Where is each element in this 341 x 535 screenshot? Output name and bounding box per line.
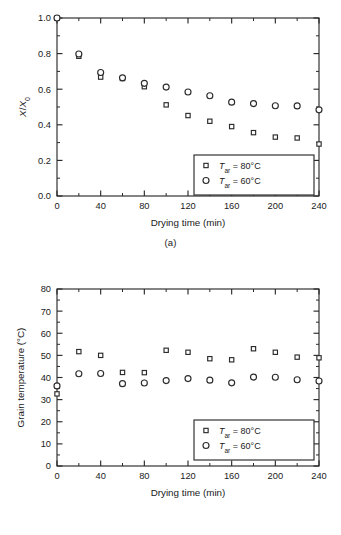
data-point-square	[99, 353, 103, 357]
legend-marker-circle	[203, 443, 209, 449]
data-point-circle	[294, 377, 300, 383]
chart-panel-a: 040801201602002400.00.20.40.60.81.0Dryin…	[0, 0, 341, 267]
data-point-circle	[163, 84, 169, 90]
data-point-square	[186, 350, 190, 354]
y-tick-label: 20	[41, 417, 51, 427]
data-series-1	[55, 347, 321, 396]
data-point-circle	[229, 99, 235, 105]
y-tick-label: 1.0	[38, 13, 51, 23]
y-axis-title: X/X0	[17, 97, 31, 118]
x-tick-label: 200	[268, 201, 284, 211]
data-point-circle	[163, 378, 169, 384]
data-point-circle	[272, 374, 278, 380]
data-point-circle	[141, 80, 147, 86]
data-point-circle	[98, 69, 104, 75]
data-point-circle	[251, 374, 257, 380]
data-point-square	[120, 370, 124, 374]
y-tick-label: 0.0	[38, 191, 51, 201]
panel-a-caption: (a)	[0, 237, 341, 248]
data-point-circle	[185, 89, 191, 95]
y-tick-label: 30	[41, 395, 51, 405]
data-point-square	[77, 349, 81, 353]
data-point-square	[317, 356, 321, 360]
x-tick-label: 40	[95, 471, 105, 481]
y-tick-label: 0.4	[38, 120, 51, 130]
data-point-square	[251, 130, 255, 134]
x-tick-label: 80	[139, 471, 149, 481]
legend-marker-circle	[203, 178, 209, 184]
data-point-square	[55, 392, 59, 396]
legend-marker-square	[204, 428, 208, 432]
y-tick-label: 70	[41, 307, 51, 317]
x-axis-title: Drying time (min)	[151, 217, 226, 228]
x-tick-label: 80	[139, 201, 149, 211]
x-tick-label: 0	[54, 471, 59, 481]
data-point-square	[251, 347, 255, 351]
y-tick-label: 80	[41, 284, 51, 294]
y-tick-label: 50	[41, 351, 51, 361]
data-point-circle	[185, 376, 191, 382]
data-point-square	[295, 136, 299, 140]
data-point-circle	[120, 381, 126, 387]
data-point-circle	[229, 380, 235, 386]
x-axis-title: Drying time (min)	[151, 487, 226, 498]
x-tick-label: 40	[95, 201, 105, 211]
y-axis-title-text: X/X0	[17, 97, 31, 118]
x-tick-label: 0	[54, 201, 59, 211]
scatter-plot-a: 040801201602002400.00.20.40.60.81.0Dryin…	[0, 0, 341, 267]
data-point-circle	[120, 75, 126, 81]
x-tick-label: 160	[224, 201, 240, 211]
y-tick-label: 60	[41, 329, 51, 339]
data-point-square	[273, 350, 277, 354]
scatter-plot-b: 0408012016020024001020304050607080Drying…	[0, 268, 341, 535]
figure-container: 040801201602002400.00.20.40.60.81.0Dryin…	[0, 0, 341, 535]
x-tick-label: 160	[224, 471, 240, 481]
data-point-square	[186, 113, 190, 117]
data-point-circle	[316, 378, 322, 384]
data-point-circle	[316, 107, 322, 113]
data-point-square	[142, 370, 146, 374]
y-axis-title: Grain temperature (°C)	[15, 328, 26, 428]
y-tick-label: 10	[41, 439, 51, 449]
data-point-circle	[54, 15, 60, 21]
data-point-circle	[141, 380, 147, 386]
data-point-circle	[76, 51, 82, 57]
data-point-square	[273, 135, 277, 139]
legend: Tar = 80°CTar = 60°C	[194, 420, 314, 460]
legend: Tar = 80°CTar = 60°C	[194, 155, 314, 195]
x-tick-label: 120	[180, 201, 196, 211]
data-point-square	[230, 358, 234, 362]
data-series-2	[54, 15, 322, 113]
data-point-square	[164, 103, 168, 107]
x-tick-label: 240	[311, 201, 327, 211]
data-point-square	[164, 348, 168, 352]
y-axis-title-text: Grain temperature (°C)	[15, 328, 26, 428]
x-tick-label: 240	[311, 471, 327, 481]
data-point-circle	[76, 371, 82, 377]
data-series-1	[55, 16, 321, 146]
data-series-2	[54, 371, 322, 389]
x-tick-label: 120	[180, 471, 196, 481]
data-point-square	[230, 124, 234, 128]
y-tick-label: 0.6	[38, 85, 51, 95]
data-point-circle	[294, 103, 300, 109]
y-tick-label: 0.2	[38, 156, 51, 166]
y-tick-label: 0.8	[38, 49, 51, 59]
data-point-square	[208, 119, 212, 123]
data-point-circle	[272, 103, 278, 109]
y-tick-label: 0	[46, 461, 51, 471]
data-point-circle	[207, 93, 213, 99]
x-tick-label: 200	[268, 471, 284, 481]
data-point-circle	[251, 101, 257, 107]
data-point-circle	[54, 383, 60, 389]
chart-panel-b: 0408012016020024001020304050607080Drying…	[0, 268, 341, 535]
data-point-circle	[207, 377, 213, 383]
legend-marker-square	[204, 163, 208, 167]
data-point-square	[208, 357, 212, 361]
y-tick-label: 40	[41, 373, 51, 383]
data-point-circle	[98, 371, 104, 377]
data-point-square	[317, 142, 321, 146]
data-point-square	[295, 355, 299, 359]
